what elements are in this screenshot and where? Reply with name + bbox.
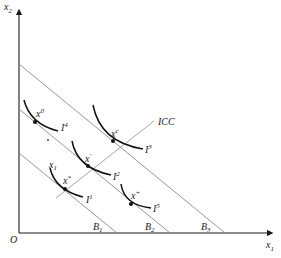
label-i4: I4 [60,121,68,133]
label-x-prime: x′ [84,152,91,164]
label-x0: x0 [35,107,44,119]
budget-label-b2: B2 [145,221,155,234]
point-x-star [63,187,67,191]
stray-dot [47,139,49,141]
label-i2: I2 [112,170,120,182]
label-xc: xc [110,127,119,139]
label-x1: x1 [48,159,57,172]
x-axis-label: x1 [265,239,274,253]
icc-line [56,121,154,198]
consumer-choice-diagram: x2 x1 O B1 B2 B3 ICC I4 I3 I2 I1 I5 x0 x… [0,0,281,258]
label-i3: I3 [144,143,152,155]
y-axis-label: x2 [3,1,12,15]
point-x0 [33,120,37,124]
origin-label: O [10,234,17,245]
point-xc [111,139,115,143]
indifference-curve-i4 [24,100,58,131]
label-i1: I1 [85,193,93,205]
label-x-plus: x+ [130,189,140,201]
budget-line-b1 [19,153,117,233]
point-x-prime [86,164,90,168]
budget-label-b3: B3 [201,221,211,234]
budget-label-b1: B1 [93,221,103,234]
point-x-plus [129,202,133,206]
label-i5: I5 [152,202,160,214]
icc-label: ICC [157,116,175,127]
label-x-star: x* [62,174,71,186]
budget-line-b3 [19,64,225,233]
